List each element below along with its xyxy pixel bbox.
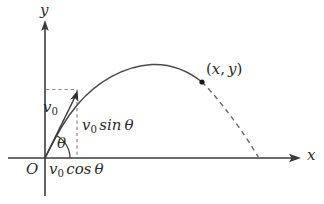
point-close-paren: ) (237, 60, 243, 78)
projectile-motion-figure: y x O v0 θ v0sin θ v0cos θ (x, y) (0, 0, 324, 204)
trajectory-point-dot (199, 79, 204, 84)
vertical-component-label: v0sin θ (82, 118, 134, 135)
horizontal-component-label: v0cos θ (49, 162, 104, 179)
trajectory-dashed-path (202, 82, 260, 159)
origin-label: O (26, 162, 38, 177)
launch-angle-label: θ (57, 136, 66, 151)
initial-speed-label: v0 (43, 100, 58, 117)
horizontal-component-subscript: 0 (57, 168, 63, 179)
horizontal-component-function: cos θ (66, 160, 103, 178)
y-axis-label: y (40, 3, 48, 18)
initial-speed-subscript: 0 (51, 106, 57, 117)
trajectory-point-label: (x, y) (206, 62, 242, 77)
x-axis-label: x (307, 148, 315, 163)
vertical-component-function: sin θ (99, 116, 133, 134)
initial-velocity-arrowhead (70, 91, 78, 102)
point-comma: , (220, 60, 228, 78)
point-y-symbol: y (228, 60, 236, 78)
vertical-component-subscript: 0 (90, 124, 96, 135)
